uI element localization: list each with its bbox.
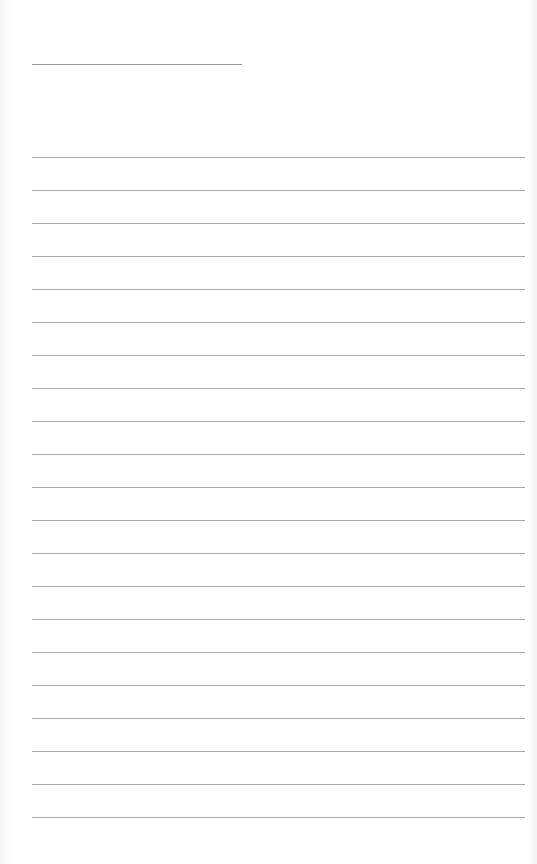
ruled-line (32, 751, 525, 752)
ruled-line (32, 520, 525, 521)
ruled-line (32, 784, 525, 785)
ruled-line (32, 652, 525, 653)
ruled-line (32, 619, 525, 620)
ruled-line (32, 289, 525, 290)
ruled-line (32, 685, 525, 686)
ruled-line (32, 190, 525, 191)
lined-paper-page (0, 0, 537, 864)
ruled-line (32, 157, 525, 158)
ruled-line (32, 223, 525, 224)
ruled-line (32, 487, 525, 488)
ruled-line (32, 718, 525, 719)
ruled-line (32, 553, 525, 554)
header-name-line (32, 64, 242, 65)
ruled-line (32, 817, 525, 818)
ruled-line (32, 322, 525, 323)
ruled-line (32, 586, 525, 587)
ruled-line (32, 454, 525, 455)
ruled-line (32, 256, 525, 257)
ruled-line (32, 355, 525, 356)
ruled-line (32, 421, 525, 422)
ruled-line (32, 388, 525, 389)
